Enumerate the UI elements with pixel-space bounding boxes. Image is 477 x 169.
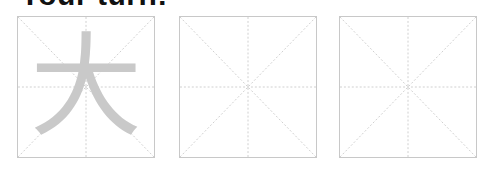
page-title: Your turn: [20,0,168,12]
trace-character [340,17,476,157]
practice-box-1[interactable]: 大 [17,16,155,158]
trace-character: 大 [18,17,154,157]
trace-character [180,17,316,157]
practice-box-2[interactable] [179,16,317,158]
practice-box-3[interactable] [339,16,477,158]
